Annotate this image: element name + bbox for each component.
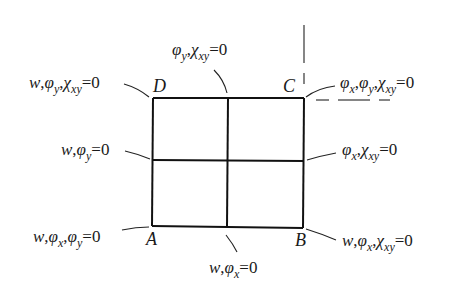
symbol-phi: φ [225,258,234,277]
corner-label-B: B [295,230,306,250]
equals-zero: =0 [209,40,227,59]
bc-label-top-mid: φy,χxy=0 [172,40,227,63]
symbol-phi: φ [172,40,181,59]
equals-zero: =0 [82,227,100,246]
leader-right-mid [307,153,336,160]
bc-label-corner-D: w,φy,χxy=0 [29,73,100,96]
leader-left-mid [125,151,150,159]
equals-zero: =0 [395,231,413,250]
edge-right-BC [303,98,304,228]
symbol-w: w [61,140,73,159]
equals-zero: =0 [82,73,100,92]
leader-corner-B [306,229,336,240]
midline-vertical [227,98,228,227]
symbol-w: w [342,231,354,250]
subscript: xy [383,240,395,254]
bc-label-corner-B: w,φx,χxy=0 [342,231,413,254]
corner-label-D: D [152,76,166,96]
equals-zero: =0 [239,258,257,277]
equals-zero: =0 [91,140,109,159]
plate-boundary-diagram: D C A B w,φy,χxy=0 φy,χxy=0 φx,φy,χxy=0 … [0,0,463,296]
symbol-phi: φ [49,227,58,246]
symbol-phi: φ [342,140,351,159]
equals-zero: =0 [396,73,414,92]
bc-label-corner-A: w,φx,φy=0 [33,227,100,250]
leader-corner-C [306,86,335,97]
plate-grid [152,98,304,228]
edge-left-AD [152,98,153,226]
leader-top-mid [214,70,227,93]
leader-bottom-mid [226,235,237,252]
equals-zero: =0 [379,140,397,159]
symbol-phi: φ [68,227,77,246]
leader-corner-D [124,84,149,97]
bc-label-bottom-mid: w,φx=0 [209,258,257,281]
leader-corner-A [122,227,149,230]
bc-label-left-mid: w,φy=0 [61,140,109,163]
subscript: xy [384,82,396,96]
bc-label-right-mid: φx,χxy=0 [342,140,397,163]
symbol-phi: φ [77,140,86,159]
symbol-phi: φ [358,231,367,250]
symbol-phi: φ [340,73,349,92]
subscript: xy [367,149,379,163]
corner-label-C: C [283,76,296,96]
symbol-w: w [209,258,221,277]
symbol-phi: φ [45,73,54,92]
subscript: xy [70,82,82,96]
symbol-w: w [33,227,45,246]
symbol-w: w [29,73,41,92]
bc-label-corner-C: φx,φy,χxy=0 [340,73,414,96]
corner-label-A: A [145,229,158,249]
subscript: xy [197,49,209,63]
symbol-phi: φ [359,73,368,92]
